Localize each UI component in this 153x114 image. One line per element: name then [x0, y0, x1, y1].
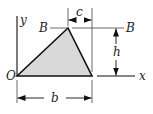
label-base: b — [51, 91, 59, 105]
label-y: y — [19, 13, 27, 27]
triangle-diagram: y B c B h O x b — [0, 0, 153, 114]
triangle-shape — [17, 28, 92, 76]
label-c: c — [76, 5, 83, 19]
label-x: x — [139, 69, 146, 83]
label-b-left: B — [38, 21, 48, 35]
label-b-right: B — [125, 21, 135, 35]
label-origin: O — [6, 69, 16, 83]
label-h: h — [113, 45, 121, 59]
